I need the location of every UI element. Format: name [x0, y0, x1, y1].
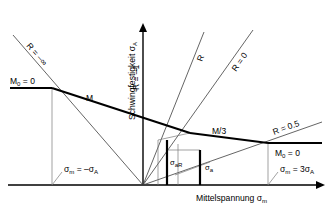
label-sigma-m-neg-sigma-a: σm = –σA: [64, 164, 99, 175]
label-slope-m: M: [86, 93, 93, 103]
y-axis-label-text: Schwingfestigkeit: [127, 53, 137, 120]
ann1-sub2: A: [310, 168, 315, 175]
segment-m-third: [190, 133, 268, 143]
label-r-minus-infinity-text: R = –∞: [24, 41, 49, 68]
svg-text:Mittelspannung σm: Mittelspannung σm: [196, 193, 267, 204]
ann0-mid: = –σ: [74, 164, 94, 174]
ann2-sub: aR: [175, 161, 183, 168]
y-axis-arrowhead: [139, 23, 147, 32]
label-m0-right-rest: = 0: [285, 148, 300, 158]
ann0-sub2: A: [94, 168, 99, 175]
label-slope-m-third: M/3: [212, 126, 226, 136]
svg-text:M0 = 0: M0 = 0: [10, 76, 35, 87]
x-axis-arrowhead: [316, 181, 325, 189]
label-r-generic: R: [195, 53, 207, 62]
x-axis-label: Mittelspannung σm: [196, 193, 267, 204]
label-m0-right: M0 = 0: [275, 148, 300, 159]
haigh-diagram-canvas: R = –∞ R = –1 R R = 0 R = 0.5 M M/3 M0 =…: [0, 0, 331, 213]
label-m0-right-symbol: M: [275, 148, 282, 158]
ray-r-minus-infinity: [13, 35, 143, 185]
x-axis-label-sub: m: [262, 197, 267, 204]
y-axis-label: Schwingfestigkeit σA: [127, 41, 138, 120]
haigh-diagram: R = –∞ R = –1 R R = 0 R = 0.5 M M/3 M0 =…: [0, 0, 331, 213]
label-r-zero-point-five: R = 0.5: [271, 118, 301, 137]
x-axis-label-text: Mittelspannung: [196, 193, 255, 203]
label-r-zero: R = 0: [229, 50, 249, 73]
svg-text:σa: σa: [205, 163, 214, 173]
y-axis-label-sub: A: [131, 41, 138, 46]
segment-m: [52, 88, 190, 133]
label-sigma-m-3-sigma-a: σm = 3σA: [280, 164, 315, 175]
svg-text:σaR: σaR: [170, 158, 183, 168]
helper-horizontal-sigma-aR: [158, 133, 190, 140]
ann3-sub: a: [210, 166, 214, 173]
label-r-zero-text: R = 0: [229, 50, 249, 73]
label-m0-left-symbol: M: [10, 76, 17, 86]
label-m0-left-rest: = 0: [20, 76, 35, 86]
label-r-minus-infinity: R = –∞: [24, 41, 49, 68]
label-m0-left: M0 = 0: [10, 76, 35, 87]
ann1-mid: = 3σ: [290, 164, 310, 174]
svg-text:σm = 3σA: σm = 3σA: [280, 164, 315, 175]
label-sigma-a: σa: [205, 163, 214, 173]
leader-sigma-m-neg: [52, 172, 62, 185]
label-r-zero-point-five-text: R = 0.5: [271, 118, 301, 137]
label-sigma-aR: σaR: [170, 158, 183, 168]
leader-sigma-m-3sigma: [268, 172, 278, 185]
svg-text:M0 = 0: M0 = 0: [275, 148, 300, 159]
label-r-generic-text: R: [195, 53, 207, 62]
svg-text:Schwingfestigkeit σA: Schwingfestigkeit σA: [127, 41, 138, 120]
ray-r-zero: [143, 30, 253, 185]
svg-text:σm = –σA: σm = –σA: [64, 164, 99, 175]
